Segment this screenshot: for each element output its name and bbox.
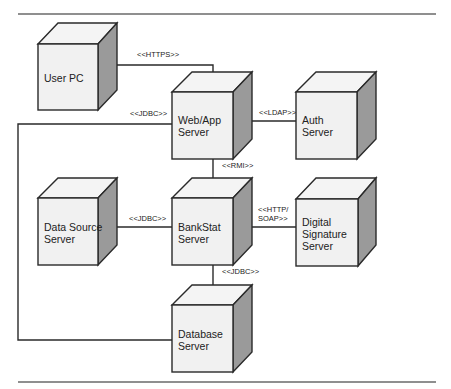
node-auth-server[interactable]: Auth Server bbox=[296, 72, 376, 159]
connector-label-http-soap-2: SOAP>> bbox=[258, 214, 288, 223]
node-label-digital-sig-1: Digital bbox=[302, 216, 331, 228]
node-label-web-app-1: Web/App bbox=[178, 114, 221, 126]
connector-label-jdbc-web-db: <<JDBC>> bbox=[130, 109, 168, 118]
node-bankstat-server[interactable]: BankStat Server bbox=[172, 178, 252, 265]
node-data-source-server[interactable]: Data Source Server bbox=[38, 178, 117, 265]
node-user-pc[interactable]: User PC bbox=[38, 23, 117, 110]
connector-label-jdbc-datasource: <<JDBC>> bbox=[129, 214, 167, 223]
connector-label-https: <<HTTPS>> bbox=[137, 50, 180, 59]
node-label-user-pc: User PC bbox=[44, 72, 84, 84]
node-web-app-server[interactable]: Web/App Server bbox=[172, 72, 252, 159]
node-label-web-app-2: Server bbox=[178, 126, 209, 138]
node-database-server[interactable]: Database Server bbox=[172, 285, 252, 372]
connector-label-rmi: <<RMI>> bbox=[222, 161, 254, 170]
connector-label-ldap: <<LDAP>> bbox=[259, 108, 297, 117]
node-label-digital-sig-3: Server bbox=[302, 240, 333, 252]
node-label-auth-2: Server bbox=[302, 126, 333, 138]
node-label-data-source-1: Data Source bbox=[44, 221, 103, 233]
deployment-diagram: <<HTTPS>> <<LDAP>> <<JDBC>> <<RMI>> <<JD… bbox=[0, 0, 451, 389]
node-label-data-source-2: Server bbox=[44, 233, 75, 245]
node-digital-signature-server[interactable]: Digital Signature Server bbox=[296, 178, 376, 266]
node-label-bankstat-2: Server bbox=[178, 233, 209, 245]
connector-label-jdbc-bankstat-db: <<JDBC>> bbox=[222, 267, 260, 276]
node-label-auth-1: Auth bbox=[302, 114, 324, 126]
node-label-database-1: Database bbox=[178, 328, 223, 340]
node-label-digital-sig-2: Signature bbox=[302, 228, 347, 240]
connector-label-http-soap-1: <<HTTP/ bbox=[258, 205, 289, 214]
node-label-bankstat-1: BankStat bbox=[178, 221, 221, 233]
node-label-database-2: Server bbox=[178, 340, 209, 352]
